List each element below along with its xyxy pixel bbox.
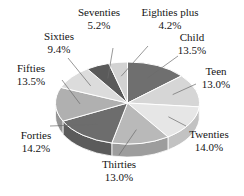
pie-label-child: Child 13.5% — [166, 31, 218, 56]
pie-label-forties-name: Forties — [8, 129, 64, 142]
pie-label-twenties: Twenties 14.0% — [178, 128, 240, 153]
pie-chart-figure: Seventies 5.2% Eighties plus 4.2% Child … — [0, 0, 244, 196]
pie-label-child-name: Child — [166, 31, 218, 44]
pie-label-teen: Teen 13.0% — [192, 65, 240, 90]
pie-label-eighties-plus-value: 4.2% — [130, 19, 210, 32]
pie-label-thirties-value: 13.0% — [90, 171, 148, 184]
pie-label-seventies: Seventies 5.2% — [66, 6, 132, 31]
pie-label-sixties-name: Sixties — [30, 30, 88, 43]
pie-label-twenties-name: Twenties — [178, 128, 240, 141]
pie-label-teen-name: Teen — [192, 65, 240, 78]
pie-label-child-value: 13.5% — [166, 44, 218, 57]
pie-label-eighties-plus-name: Eighties plus — [130, 6, 210, 19]
pie-label-forties-value: 14.2% — [8, 142, 64, 155]
pie-label-sixties-value: 9.4% — [30, 43, 88, 56]
pie-label-fifties-value: 13.5% — [4, 75, 58, 88]
pie-label-fifties: Fifties 13.5% — [4, 62, 58, 87]
pie-label-twenties-value: 14.0% — [178, 141, 240, 154]
pie-label-eighties-plus: Eighties plus 4.2% — [130, 6, 210, 31]
pie-label-seventies-name: Seventies — [66, 6, 132, 19]
pie-label-thirties-name: Thirties — [90, 158, 148, 171]
pie-label-forties: Forties 14.2% — [8, 129, 64, 154]
pie-label-thirties: Thirties 13.0% — [90, 158, 148, 183]
pie-label-sixties: Sixties 9.4% — [30, 30, 88, 55]
pie-label-fifties-name: Fifties — [4, 62, 58, 75]
pie-label-teen-value: 13.0% — [192, 78, 240, 91]
